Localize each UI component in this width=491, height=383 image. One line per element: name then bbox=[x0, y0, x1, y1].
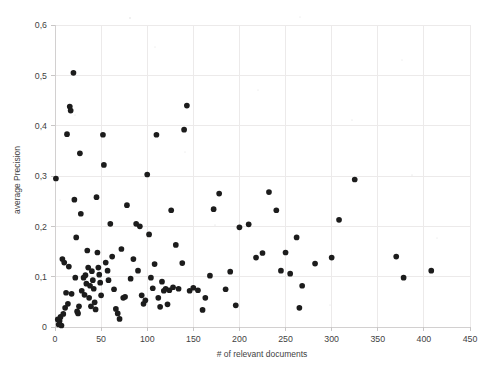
data-point bbox=[53, 176, 59, 182]
data-point bbox=[69, 291, 75, 297]
data-point bbox=[63, 290, 69, 296]
data-point bbox=[157, 304, 163, 310]
scan-speck bbox=[330, 305, 331, 306]
scan-speck bbox=[411, 174, 412, 175]
data-point bbox=[71, 70, 77, 76]
data-point bbox=[184, 103, 190, 109]
data-point bbox=[352, 177, 358, 183]
data-point bbox=[148, 275, 154, 281]
data-point bbox=[273, 207, 279, 213]
data-point bbox=[299, 283, 305, 289]
grid-lines bbox=[55, 25, 470, 327]
data-point bbox=[195, 287, 201, 293]
data-point bbox=[146, 232, 152, 238]
data-point bbox=[137, 223, 143, 229]
data-point bbox=[60, 311, 66, 317]
data-point bbox=[115, 311, 121, 317]
data-point bbox=[283, 250, 289, 256]
data-point bbox=[159, 279, 165, 285]
scan-speck bbox=[300, 17, 301, 18]
data-point bbox=[227, 269, 233, 275]
data-point bbox=[165, 302, 171, 308]
data-point bbox=[95, 265, 101, 271]
data-point bbox=[72, 197, 78, 203]
data-point bbox=[336, 217, 342, 223]
scan-speck bbox=[185, 152, 186, 153]
data-point bbox=[103, 260, 109, 266]
data-points bbox=[53, 70, 434, 328]
data-point bbox=[77, 151, 83, 157]
data-point bbox=[155, 295, 161, 301]
x-tick-label: 50 bbox=[96, 334, 106, 344]
y-tick-label: 0,1 bbox=[35, 272, 47, 282]
data-point bbox=[223, 286, 229, 292]
data-point bbox=[393, 254, 399, 260]
y-tick-label: 0,3 bbox=[35, 171, 47, 181]
data-point bbox=[105, 268, 111, 274]
data-point bbox=[117, 316, 123, 322]
x-tick-label: 450 bbox=[463, 334, 478, 344]
data-point bbox=[173, 242, 179, 248]
y-axis-ticks: 00,10,20,30,40,50,6 bbox=[35, 20, 55, 332]
data-point bbox=[260, 250, 266, 256]
data-point bbox=[278, 268, 284, 274]
data-point bbox=[92, 299, 98, 305]
data-point bbox=[86, 295, 92, 301]
data-point bbox=[135, 268, 141, 274]
data-point bbox=[202, 295, 208, 301]
data-point bbox=[179, 260, 185, 266]
data-point bbox=[152, 261, 158, 267]
data-point bbox=[297, 305, 303, 311]
scan-noise-specks bbox=[60, 17, 438, 341]
x-axis-label: # of relevant documents bbox=[217, 349, 308, 359]
data-point bbox=[253, 255, 259, 261]
data-point bbox=[61, 260, 67, 266]
data-point bbox=[97, 280, 103, 286]
data-point bbox=[211, 206, 217, 212]
data-point bbox=[128, 276, 134, 282]
scan-speck bbox=[214, 224, 215, 225]
data-point bbox=[294, 235, 300, 241]
data-point bbox=[65, 301, 71, 307]
data-point bbox=[237, 224, 243, 230]
x-tick-label: 0 bbox=[53, 334, 58, 344]
scan-speck bbox=[258, 90, 259, 91]
data-point bbox=[64, 131, 70, 137]
data-point bbox=[329, 255, 335, 261]
scan-speck bbox=[351, 119, 352, 120]
data-point bbox=[181, 127, 187, 133]
data-point bbox=[89, 268, 95, 274]
data-point bbox=[78, 211, 84, 217]
y-tick-label: 0,6 bbox=[35, 20, 47, 30]
data-point bbox=[66, 264, 72, 270]
data-point bbox=[93, 307, 99, 313]
scatter-chart: 050100150200250300350400450 00,10,20,30,… bbox=[0, 0, 491, 383]
data-point bbox=[144, 172, 150, 178]
y-tick-label: 0,2 bbox=[35, 222, 47, 232]
data-point bbox=[111, 286, 117, 292]
data-point bbox=[312, 261, 318, 267]
y-tick-label: 0,5 bbox=[35, 71, 47, 81]
data-point bbox=[94, 194, 100, 200]
data-point bbox=[96, 272, 102, 278]
data-point bbox=[139, 292, 145, 298]
data-point bbox=[143, 297, 149, 303]
data-point bbox=[154, 132, 160, 138]
data-point bbox=[428, 268, 434, 274]
data-point bbox=[150, 285, 156, 291]
data-point bbox=[124, 202, 130, 208]
data-point bbox=[122, 294, 128, 300]
data-point bbox=[72, 275, 78, 281]
data-point bbox=[73, 235, 79, 241]
data-point bbox=[101, 162, 107, 168]
data-point bbox=[170, 284, 176, 290]
y-tick-label: 0 bbox=[42, 322, 47, 332]
data-point bbox=[168, 207, 174, 213]
scan-speck bbox=[60, 200, 61, 201]
y-tick-label: 0,4 bbox=[35, 121, 47, 131]
x-axis-ticks: 050100150200250300350400450 bbox=[53, 327, 478, 344]
data-point bbox=[106, 277, 112, 283]
data-point bbox=[98, 292, 104, 298]
data-point bbox=[119, 246, 125, 252]
x-tick-label: 100 bbox=[140, 334, 155, 344]
